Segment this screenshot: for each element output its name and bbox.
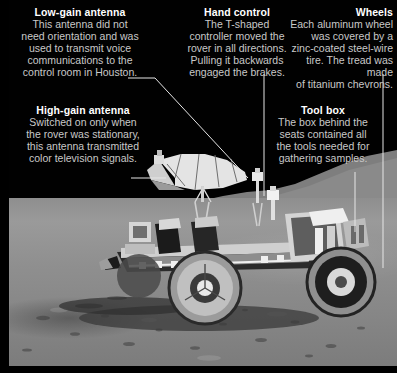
hand-control bbox=[267, 186, 279, 220]
annotated-figure: Low-gain antenna This antenna did not ne… bbox=[0, 0, 397, 373]
rover-wheel-rear bbox=[307, 248, 375, 316]
annotation-hand-control: Hand control The T-shaped controller mov… bbox=[184, 6, 290, 79]
low-gain-antenna-mast bbox=[252, 168, 263, 226]
annotation-wheels: Wheels Each aluminum wheel was covered b… bbox=[285, 6, 393, 90]
annotation-low-gain-antenna: Low-gain antenna This antenna did not ne… bbox=[6, 6, 154, 79]
bottom-border bbox=[0, 366, 397, 373]
annotation-tool-box: Tool box The box behind the seats contai… bbox=[262, 104, 384, 165]
annotation-body: This antenna did not need orientation an… bbox=[6, 19, 154, 79]
high-gain-dish bbox=[147, 154, 247, 226]
annotation-high-gain-antenna: High-gain antenna Switched on only when … bbox=[8, 104, 158, 165]
annotation-body: The box behind the seats contained all t… bbox=[262, 117, 384, 165]
annotation-body: The T-shaped controller moved the rover … bbox=[184, 19, 290, 79]
annotation-body: Switched on only when the rover was stat… bbox=[8, 117, 158, 165]
rover-wheel-front bbox=[169, 252, 241, 324]
annotation-body: Each aluminum wheel was covered by a zin… bbox=[285, 19, 393, 90]
